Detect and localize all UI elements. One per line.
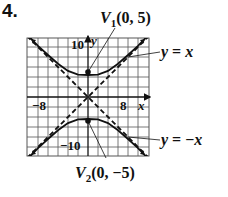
- v2-leader: [88, 121, 106, 158]
- tick-x-right: 8: [120, 98, 127, 113]
- asym-pos-leader: [128, 52, 160, 57]
- tick-y-bottom: −10: [60, 138, 80, 153]
- v2-label: V2(0, −5): [75, 164, 135, 184]
- tick-x-left: −8: [32, 98, 46, 113]
- tick-y-top: 10: [71, 37, 84, 52]
- v2-label-coords: (0, −5): [91, 164, 135, 182]
- v1-label: V1(0, 5): [100, 9, 151, 29]
- asym-pos-eq: =: [168, 43, 185, 60]
- asymptote-label-neg: y = −x: [159, 131, 202, 149]
- v1-label-coords: (0, 5): [116, 9, 151, 27]
- x-axis-label: x: [137, 98, 145, 113]
- hyperbola-graph: 10 y −8 8 x −10 V1(0, 5) V2(0, −5) y = x…: [0, 0, 228, 197]
- asymptote-label-pos: y = x: [159, 43, 193, 61]
- asym-neg-eq: = −: [168, 131, 194, 148]
- asym-neg-x: x: [193, 131, 202, 148]
- asym-pos-x: x: [184, 43, 193, 60]
- asym-neg-leader: [128, 137, 160, 140]
- y-axis-label: y: [89, 33, 97, 48]
